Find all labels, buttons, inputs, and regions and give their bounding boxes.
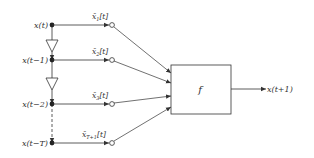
tap-label-4: x̄T+1[t] [82,130,106,140]
open-circle-icon [110,141,115,146]
tap-label-3: x̄3[t] [92,91,108,101]
input-label-3: x(t−2) [22,100,48,109]
tap-row-2 [50,58,115,63]
connections-to-f [114,27,171,141]
open-circle-icon [110,23,115,28]
input-label-2: x(t−1) [22,56,48,65]
output-label: x(t+1) [267,85,293,94]
open-circle-icon [110,102,115,107]
tap-label-1: x̄1[t] [92,12,108,22]
time-delay-predictor-diagram: f x(t+1) x(t) x(t−1) x(t−2) x(t−T) x̄1[t… [0,0,314,158]
tap-label-2: x̄2[t] [92,47,108,57]
input-label-4: x(t−T) [22,139,48,148]
input-label-1: x(t) [34,21,48,30]
tap-row-4 [50,141,115,146]
delay-icon [46,40,58,52]
open-circle-icon [110,58,115,63]
delay-icon [46,78,58,90]
tap-row-1 [50,23,115,28]
tap-row-3 [50,102,115,107]
